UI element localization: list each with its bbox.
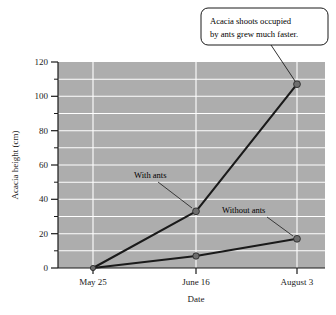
y-tick-label-60: 60 (39, 160, 49, 170)
chart-figure: 120 100 80 60 40 20 0 May 25 June 16 Aug… (0, 0, 336, 315)
acacia-growth-line-chart: 120 100 80 60 40 20 0 May 25 June 16 Aug… (0, 0, 336, 315)
y-tick-label-0: 0 (44, 263, 49, 273)
callout-box (201, 8, 328, 45)
x-tick-label-may-25: May 25 (79, 277, 107, 287)
y-tick-label-20: 20 (39, 229, 49, 239)
data-point-with-ants-may-25 (90, 265, 95, 270)
y-axis-title: Acacia height (cm) (10, 131, 20, 200)
y-tick-label-40: 40 (39, 194, 49, 204)
callout-text-line-1: Acacia shoots occupied (210, 16, 292, 26)
x-tick-label-august-3: August 3 (281, 277, 314, 287)
callout-text-line-2: by ants grew much faster. (210, 29, 298, 39)
annotation-with-ants-label: With ants (134, 170, 166, 180)
x-axis-title: Date (188, 294, 205, 304)
data-point-without-ants-august-3 (294, 235, 301, 242)
data-point-without-ants-june-16 (193, 253, 199, 259)
x-axis-ticks (93, 268, 297, 274)
y-axis-major-ticks (51, 62, 58, 268)
x-tick-label-june-16: June 16 (182, 277, 210, 287)
data-point-with-ants-august-3 (294, 81, 301, 88)
data-point-with-ants-june-16 (193, 208, 200, 215)
y-tick-label-100: 100 (35, 91, 49, 101)
annotation-without-ants-label: Without ants (222, 205, 265, 215)
y-tick-label-80: 80 (39, 126, 49, 136)
y-tick-label-120: 120 (35, 57, 49, 67)
